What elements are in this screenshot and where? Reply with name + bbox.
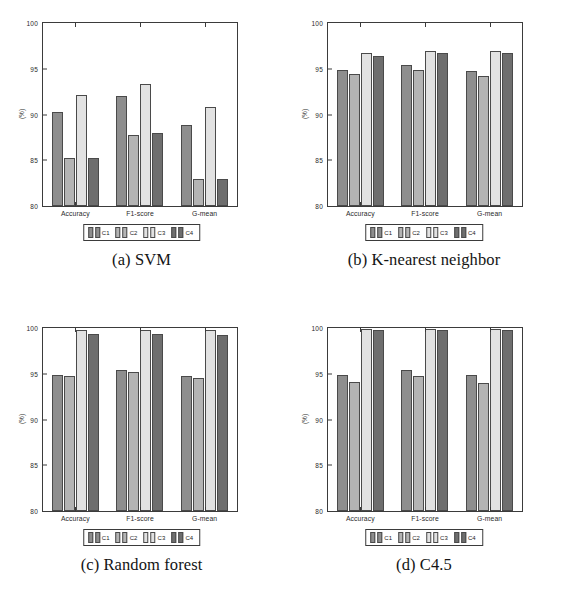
legend-swatch-icon [377, 532, 382, 543]
legend-swatch-icon [171, 227, 176, 238]
x-tick-mark-top [140, 328, 141, 332]
legend-swatch-icon [88, 227, 93, 238]
panel-caption: (d) C4.5 [283, 555, 565, 575]
bar-group [181, 23, 229, 206]
y-tick-label: 90 [30, 111, 43, 118]
bar-c3-accuracy [76, 330, 87, 511]
panel-caption: (c) Random forest [0, 555, 283, 575]
bar-c4-g-mean [217, 335, 228, 511]
chart-panel-2: 80859095100AccuracyF1-scoreG-mean(%)C1C2… [283, 0, 565, 305]
bar-c2-g-mean [478, 383, 489, 511]
legend-swatch-icon [123, 227, 128, 238]
legend-swatch-icon [116, 532, 121, 543]
bar-c2-f1-score [128, 372, 139, 511]
axes-frame: 80859095100AccuracyF1-scoreG-mean [327, 327, 523, 512]
bar-c3-g-mean [205, 107, 216, 206]
chart-panel-4: 80859095100AccuracyF1-scoreG-mean(%)C1C2… [283, 305, 565, 609]
y-axis-title: (%) [301, 414, 308, 424]
bar-c3-g-mean [205, 330, 216, 511]
bar-c1-g-mean [181, 125, 192, 206]
legend-label: C3 [439, 230, 450, 236]
plot-area: 80859095100AccuracyF1-scoreG-mean [327, 22, 523, 207]
legend-swatch-icon [426, 227, 431, 238]
legend-label: C1 [383, 535, 394, 541]
x-tick-mark-top [205, 23, 206, 27]
bar-c1-accuracy [337, 70, 348, 206]
x-tick-label: Accuracy [47, 210, 103, 217]
y-tick-label: 85 [315, 157, 328, 164]
x-tick-label: F1-score [397, 210, 453, 217]
x-tick-mark-top [140, 23, 141, 27]
y-tick-label: 100 [312, 20, 328, 27]
x-tick-label: F1-score [112, 515, 168, 522]
bar-c2-g-mean [193, 378, 204, 511]
legend-entry-c3: C3 [144, 532, 168, 543]
bar-c1-f1-score [116, 96, 127, 206]
y-tick-label: 85 [315, 462, 328, 469]
panel-caption: (a) SVM [0, 250, 283, 270]
y-axis-title: (%) [18, 109, 25, 119]
legend-label: C4 [467, 230, 478, 236]
legend-swatch-icon [95, 227, 100, 238]
legend-entry-c1: C1 [88, 532, 112, 543]
legend-label: C4 [184, 535, 195, 541]
bar-group [401, 328, 449, 511]
legend-label: C2 [411, 230, 422, 236]
legend-entry-c4: C4 [171, 532, 195, 543]
x-axis-labels: AccuracyF1-scoreG-mean [328, 511, 522, 522]
legend-swatch-icon [88, 532, 93, 543]
x-tick-label: G-mean [177, 515, 233, 522]
x-tick-mark-top [75, 328, 76, 332]
x-tick-label: Accuracy [332, 210, 388, 217]
bar-c3-f1-score [425, 329, 436, 511]
legend-entry-c2: C2 [116, 227, 140, 238]
bar-c3-accuracy [361, 53, 372, 206]
bar-c1-f1-score [116, 370, 127, 511]
bar-group [116, 23, 164, 206]
legend-swatch-icon [178, 532, 183, 543]
legend-swatch-icon [454, 227, 459, 238]
bar-group [116, 328, 164, 511]
bar-groups [328, 328, 522, 511]
legend-swatch-icon [433, 227, 438, 238]
x-tick-label: Accuracy [332, 515, 388, 522]
bar-c4-accuracy [373, 56, 384, 206]
legend-entry-c2: C2 [398, 227, 422, 238]
legend-swatch-icon [370, 532, 375, 543]
axes-frame: 80859095100AccuracyF1-scoreG-mean [42, 22, 238, 207]
bar-c4-g-mean [502, 53, 513, 206]
bar-c1-accuracy [52, 375, 63, 511]
bar-c3-accuracy [76, 95, 87, 206]
bar-c3-g-mean [490, 329, 501, 511]
x-tick-label: G-mean [462, 515, 518, 522]
legend-label: C4 [467, 535, 478, 541]
bar-group [401, 23, 449, 206]
y-tick-label: 85 [30, 157, 43, 164]
legend-label: C2 [129, 535, 140, 541]
bar-c4-g-mean [217, 179, 228, 206]
bar-group [336, 328, 384, 511]
bar-c3-f1-score [140, 84, 151, 206]
bar-c3-accuracy [361, 329, 372, 511]
x-tick-mark-top [360, 328, 361, 332]
bar-c4-accuracy [88, 334, 99, 511]
bar-c2-accuracy [349, 74, 360, 206]
legend-swatch-icon [454, 532, 459, 543]
legend-entry-c4: C4 [454, 227, 478, 238]
bar-c3-f1-score [140, 330, 151, 511]
x-tick-mark-top [490, 23, 491, 27]
bar-c1-accuracy [52, 112, 63, 206]
y-tick-label: 80 [30, 508, 43, 515]
bar-c1-g-mean [466, 375, 477, 511]
legend-entry-c1: C1 [370, 227, 394, 238]
legend-swatch-icon [461, 227, 466, 238]
y-tick-label: 95 [315, 65, 328, 72]
bar-c4-accuracy [88, 158, 99, 206]
legend-label: C1 [101, 535, 112, 541]
bar-c4-f1-score [152, 133, 163, 206]
legend: C1C2C3C4 [83, 224, 201, 241]
chart-panel-3: 80859095100AccuracyF1-scoreG-mean(%)C1C2… [0, 305, 283, 609]
bar-c1-g-mean [181, 376, 192, 511]
x-axis-labels: AccuracyF1-scoreG-mean [328, 206, 522, 217]
bar-c2-f1-score [128, 135, 139, 206]
